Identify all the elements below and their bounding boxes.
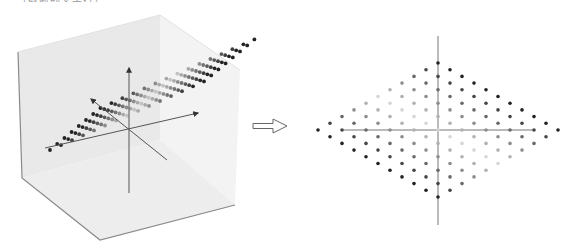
plane-dot: [92, 129, 96, 133]
plane-dot: [242, 42, 246, 46]
plane-dot: [99, 114, 103, 118]
plane-dot: [180, 89, 184, 93]
diamond-dot: [388, 155, 392, 159]
plane-dot: [176, 88, 180, 92]
plane-dot: [125, 106, 129, 110]
diamond-dot: [484, 142, 488, 146]
diamond-dot: [532, 128, 536, 132]
diamond-dot: [352, 108, 356, 112]
plane-dot: [238, 50, 242, 54]
diamond-dot: [472, 122, 476, 126]
2d-diamond-panel: [316, 36, 560, 225]
diamond-dot: [436, 88, 440, 92]
diamond-dot: [460, 142, 464, 146]
diamond-dot: [472, 108, 476, 112]
diamond-dot: [460, 101, 464, 105]
diamond-dot: [436, 61, 440, 65]
plane-dot: [198, 70, 202, 74]
diamond-dot: [448, 68, 452, 72]
plane-dot: [103, 124, 107, 128]
diamond-dot: [376, 135, 380, 139]
diamond-dot: [436, 195, 440, 199]
diamond-dot: [448, 175, 452, 179]
plane-dot: [217, 68, 221, 72]
diamond-dot: [400, 95, 404, 99]
plane-dot: [187, 83, 191, 87]
plane-dot: [132, 108, 136, 112]
diamond-dot: [364, 155, 368, 159]
plane-dot: [132, 100, 136, 104]
plane-dot: [143, 87, 147, 91]
plane-dot: [187, 67, 191, 71]
diamond-dot: [520, 148, 524, 152]
plane-dot: [136, 101, 140, 105]
diamond-dot: [400, 148, 404, 152]
plane-dot: [81, 133, 85, 137]
diamond-dot: [472, 135, 476, 139]
diamond-dot: [448, 108, 452, 112]
plane-dot: [48, 148, 52, 152]
diamond-dot: [460, 168, 464, 172]
plane-dot: [165, 93, 169, 97]
plane-dot: [135, 93, 139, 97]
diamond-dot: [424, 175, 428, 179]
plane-dot: [121, 113, 125, 117]
diamond-dot: [388, 88, 392, 92]
diamond-dot: [412, 128, 416, 132]
plane-dot: [107, 117, 111, 121]
diamond-dot: [388, 101, 392, 105]
plane-dot: [136, 109, 140, 113]
plane-dot: [158, 99, 162, 103]
diamond-dot: [460, 155, 464, 159]
plane-dot: [121, 105, 125, 109]
plane-dot: [176, 72, 180, 76]
diamond-dot: [520, 122, 524, 126]
diamond-dot: [508, 101, 512, 105]
plane-dot: [194, 69, 198, 73]
diamond-dot: [472, 148, 476, 152]
diamond-dot: [412, 182, 416, 186]
diamond-dot: [400, 175, 404, 179]
diamond-dot: [388, 168, 392, 172]
plane-dot: [191, 76, 195, 80]
plane-dot: [198, 78, 202, 82]
diamond-dot: [436, 115, 440, 119]
diamond-dot: [448, 81, 452, 85]
plane-dot: [172, 79, 176, 83]
plane-dot: [216, 59, 220, 63]
plane-dot: [157, 83, 161, 87]
diamond-dot: [532, 115, 536, 119]
diamond-dot: [412, 168, 416, 172]
plane-dot: [110, 101, 114, 105]
diamond-dot: [496, 135, 500, 139]
plane-dot: [183, 74, 187, 78]
diamond-dot: [508, 142, 512, 146]
plane-dot: [74, 131, 78, 135]
diamond-dot: [508, 115, 512, 119]
diamond-dot: [352, 135, 356, 139]
plane-dot: [191, 84, 195, 88]
diamond-dot: [364, 101, 368, 105]
plane-dot: [162, 92, 166, 96]
plane-dot: [77, 132, 81, 136]
plane-dot: [121, 96, 125, 100]
diamond-dot: [364, 115, 368, 119]
diamond-dot: [472, 162, 476, 166]
plane-dot: [154, 90, 158, 94]
diamond-dot: [448, 95, 452, 99]
plane-dot: [169, 94, 173, 98]
diamond-dot: [388, 142, 392, 146]
diamond-dot: [448, 135, 452, 139]
plane-dot: [209, 74, 213, 78]
diamond-dot: [400, 135, 404, 139]
diamond-dot: [436, 155, 440, 159]
diamond-dot: [484, 115, 488, 119]
diamond-dot: [544, 135, 548, 139]
transform-arrow-icon: [253, 119, 287, 133]
diamond-dot: [376, 95, 380, 99]
diamond-dot: [424, 81, 428, 85]
plane-dot: [231, 47, 235, 51]
diamond-dot: [496, 162, 500, 166]
diamond-dot: [340, 128, 344, 132]
diamond-dot: [496, 108, 500, 112]
